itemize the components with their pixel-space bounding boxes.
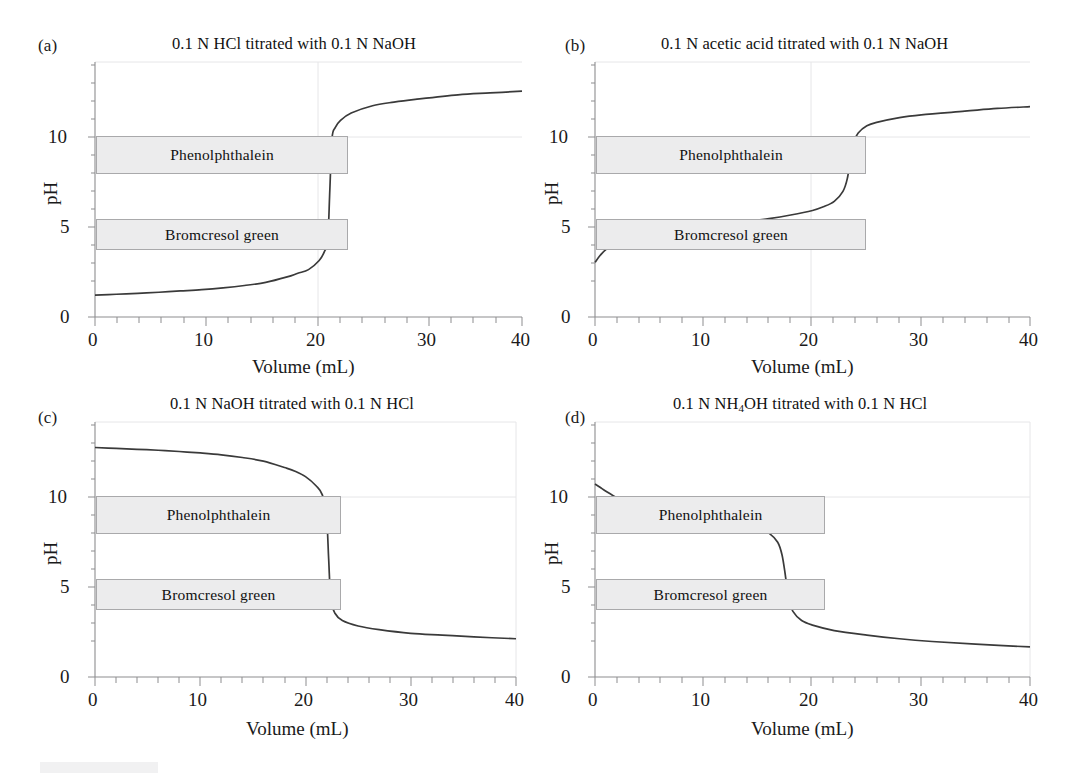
panel-d-xtick-10: 10 <box>691 689 710 711</box>
panel-a-curve <box>95 91 522 295</box>
panel-d-xtick-30: 30 <box>909 689 928 711</box>
panel-c: (c) 0.1 N NaOH titrated with 0.1 N HCl <box>0 390 533 781</box>
panel-d-ylabel: pH <box>541 542 563 565</box>
indicator-label: Bromcresol green <box>162 586 276 604</box>
panel-d-phenolphthalein-box: Phenolphthalein <box>596 496 825 534</box>
indicator-label: Phenolphthalein <box>170 146 274 164</box>
panel-c-bromcresol-box: Bromcresol green <box>96 579 341 610</box>
panel-a-axes <box>88 62 522 326</box>
panel-a-ytick-10: 10 <box>48 126 67 148</box>
panel-a-xtick-10: 10 <box>194 329 213 351</box>
panel-b-ylabel: pH <box>541 182 563 205</box>
panel-c-ylabel: pH <box>40 542 62 565</box>
panel-a-ytick-0: 0 <box>60 306 70 328</box>
panel-b: (b) 0.1 N acetic acid titrated with 0.1 … <box>533 0 1066 390</box>
panel-a-bromcresol-box: Bromcresol green <box>96 219 348 250</box>
panel-a-plot <box>0 0 533 390</box>
figure-grid: (a) 0.1 N HCl titrated with 0.1 N NaOH <box>0 0 1066 781</box>
panel-b-phenolphthalein-box: Phenolphthalein <box>596 136 866 174</box>
panel-b-xtick-10: 10 <box>691 329 710 351</box>
indicator-label: Phenolphthalein <box>167 506 271 524</box>
indicator-label: Bromcresol green <box>654 586 768 604</box>
panel-c-xtick-20: 20 <box>294 689 313 711</box>
panel-d-xtick-40: 40 <box>1019 689 1038 711</box>
panel-c-xlabel: Volume (mL) <box>246 718 349 740</box>
panel-b-xtick-30: 30 <box>909 329 928 351</box>
panel-d-xtick-0: 0 <box>588 689 598 711</box>
panel-c-ytick-0: 0 <box>60 666 70 688</box>
panel-b-ytick-5: 5 <box>561 216 571 238</box>
panel-b-xlabel: Volume (mL) <box>751 356 854 378</box>
panel-c-phenolphthalein-box: Phenolphthalein <box>96 496 341 534</box>
panel-a: (a) 0.1 N HCl titrated with 0.1 N NaOH <box>0 0 533 390</box>
panel-a-xtick-20: 20 <box>306 329 325 351</box>
panel-c-xtick-40: 40 <box>505 689 524 711</box>
panel-b-xtick-40: 40 <box>1019 329 1038 351</box>
panel-a-xtick-30: 30 <box>417 329 436 351</box>
panel-c-axes <box>88 422 516 686</box>
panel-b-bromcresol-box: Bromcresol green <box>596 219 866 250</box>
panel-b-xtick-0: 0 <box>588 329 598 351</box>
panel-d-xtick-20: 20 <box>799 689 818 711</box>
panel-d-xlabel: Volume (mL) <box>751 718 854 740</box>
page-footer-artifact <box>40 762 158 773</box>
panel-b-axes <box>588 62 1030 326</box>
panel-a-xtick-40: 40 <box>511 329 530 351</box>
panel-c-curve <box>95 448 516 639</box>
indicator-label: Phenolphthalein <box>659 506 763 524</box>
panel-a-ylabel: pH <box>40 182 62 205</box>
indicator-label: Phenolphthalein <box>679 146 783 164</box>
panel-d: (d) 0.1 N NH4OH titrated with 0.1 N HCl <box>533 390 1066 781</box>
panel-c-xtick-0: 0 <box>88 689 98 711</box>
indicator-label: Bromcresol green <box>165 226 279 244</box>
panel-c-xtick-30: 30 <box>399 689 418 711</box>
indicator-label: Bromcresol green <box>674 226 788 244</box>
panel-c-ytick-5: 5 <box>60 576 70 598</box>
panel-d-ytick-10: 10 <box>549 486 568 508</box>
panel-b-ytick-0: 0 <box>561 306 571 328</box>
panel-d-ytick-5: 5 <box>561 576 571 598</box>
panel-b-ytick-10: 10 <box>549 126 568 148</box>
panel-c-ytick-10: 10 <box>48 486 67 508</box>
panel-a-phenolphthalein-box: Phenolphthalein <box>96 136 348 174</box>
panel-b-xtick-20: 20 <box>799 329 818 351</box>
panel-d-ytick-0: 0 <box>561 666 571 688</box>
panel-d-axes <box>588 422 1030 686</box>
panel-d-bromcresol-box: Bromcresol green <box>596 579 825 610</box>
panel-a-ytick-5: 5 <box>60 216 70 238</box>
panel-c-xtick-10: 10 <box>188 689 207 711</box>
panel-a-xlabel: Volume (mL) <box>252 356 355 378</box>
panel-a-xtick-0: 0 <box>88 329 98 351</box>
